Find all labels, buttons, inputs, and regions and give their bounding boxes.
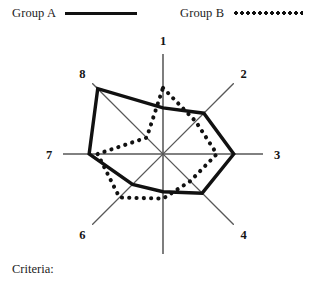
radar-chart-svg: 12345678 (0, 28, 314, 256)
axis-tick-label-4: 4 (240, 228, 247, 242)
legend-swatch-group-a (65, 8, 137, 18)
axis-tick-label-1: 1 (160, 34, 166, 48)
chart-legend: Group A Group B (0, 0, 314, 30)
radar-axis-6-mirror (163, 83, 234, 154)
radar-chart-page: Group A Group B 12345678 Criteria: (0, 0, 314, 284)
radar-plot-area: 12345678 (0, 28, 314, 256)
axis-tick-label-8: 8 (79, 67, 85, 81)
legend-item-group-a: Group A (12, 4, 137, 22)
legend-item-group-b: Group B (180, 4, 303, 22)
axis-tick-label-3: 3 (274, 148, 280, 162)
criteria-label: Criteria: (12, 262, 54, 277)
legend-label-group-b: Group B (180, 6, 224, 21)
axis-tick-label-6: 6 (79, 228, 85, 242)
solid-line-icon (65, 12, 137, 15)
legend-label-group-a: Group A (12, 6, 56, 21)
axis-tick-label-7: 7 (46, 148, 52, 162)
legend-swatch-group-b (233, 8, 303, 18)
dotted-line-icon (233, 11, 303, 15)
axis-tick-label-2: 2 (240, 67, 246, 81)
